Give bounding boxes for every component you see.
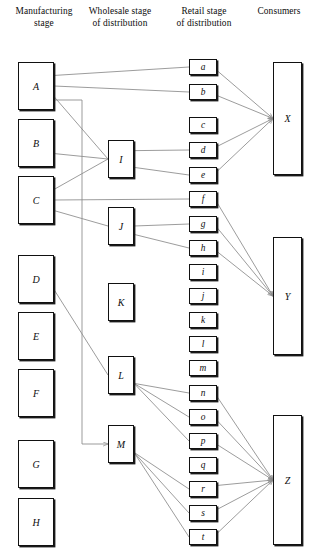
edge-n-to-Z [217,397,273,480]
manufacturer-node-B[interactable]: B [18,119,54,167]
manufacturer-label-E: E [33,331,39,342]
manufacturer-node-H[interactable]: H [18,498,54,546]
retailer-label-q: q [201,460,206,470]
consumer-label-X: X [284,113,290,124]
edge-f-to-Y [217,203,273,296]
retailer-label-n: n [201,388,206,398]
edge-J-to-g [134,224,189,226]
retailer-node-r[interactable]: r [189,481,217,497]
wholesaler-label-M: M [117,439,125,450]
manufacturer-label-G: G [32,459,39,470]
wholesaler-node-L[interactable]: L [108,356,134,394]
edge-A-to-b [54,86,189,92]
retailer-node-s[interactable]: s [189,505,217,521]
retailer-label-s: s [201,508,205,518]
edge-D-to-L [54,290,108,375]
edge-I-to-d [134,150,189,151]
edge-J-to-h [134,234,189,248]
retailer-label-i: i [202,267,205,277]
retailer-node-p[interactable]: p [189,433,217,449]
retailer-label-j: j [202,291,205,301]
manufacturer-node-E[interactable]: E [18,312,54,360]
retailer-node-t[interactable]: t [189,529,217,545]
manufacturer-node-G[interactable]: G [18,440,54,488]
manufacturer-label-A: A [33,81,39,92]
edge-t-to-Z [217,480,273,533]
retailer-node-k[interactable]: k [189,312,217,328]
edge-A-to-M [54,100,108,444]
manufacturer-node-A[interactable]: A [18,62,54,110]
retailer-node-i[interactable]: i [189,264,217,280]
manufacturer-label-H: H [32,517,39,528]
retailer-label-d: d [201,145,206,155]
manufacturer-label-C: C [33,195,40,206]
retailer-node-d[interactable]: d [189,142,217,158]
retailer-node-a[interactable]: a [189,59,217,75]
wholesaler-node-K[interactable]: K [108,283,134,321]
edge-B-to-I [54,154,108,159]
retailer-node-o[interactable]: o [189,409,217,425]
retailer-node-b[interactable]: b [189,84,217,100]
edge-M-to-t [134,452,189,537]
retailer-label-k: k [201,315,205,325]
edge-b-to-X [217,96,273,119]
retailer-label-b: b [201,87,206,97]
consumer-node-Z[interactable]: Z [273,415,302,545]
consumer-label-Z: Z [285,475,291,486]
edge-a-to-X [217,71,273,119]
manufacturer-label-B: B [33,138,39,149]
consumer-node-X[interactable]: X [273,62,302,175]
retailer-label-g: g [201,219,206,229]
edge-g-to-Y [217,228,273,296]
wholesaler-node-J[interactable]: J [108,207,134,245]
retailer-node-e[interactable]: e [189,167,217,183]
retailer-node-j[interactable]: j [189,288,217,304]
wholesaler-node-M[interactable]: M [108,425,134,463]
wholesaler-label-J: J [119,221,123,232]
manufacturer-node-F[interactable]: F [18,369,54,417]
wholesaler-label-L: L [118,370,124,381]
retailer-label-l: l [202,339,205,349]
retailer-node-c[interactable]: c [189,117,217,133]
retailer-node-q[interactable]: q [189,457,217,473]
retailer-label-m: m [200,363,207,373]
manufacturer-label-F: F [33,388,39,399]
edge-M-to-s [134,452,189,513]
edge-I-to-e [134,167,189,175]
retailer-node-n[interactable]: n [189,385,217,401]
edge-d-to-X [217,119,273,147]
manufacturer-label-D: D [32,274,39,285]
edge-A-to-I [54,97,108,159]
wholesaler-label-I: I [119,154,122,165]
retailer-label-h: h [201,243,206,253]
consumer-node-Y[interactable]: Y [273,237,302,355]
retailer-label-f: f [202,194,205,204]
retailer-label-o: o [201,412,206,422]
retailer-label-e: e [201,170,205,180]
consumer-label-Y: Y [285,291,291,302]
retailer-label-t: t [202,532,205,542]
wholesaler-label-K: K [118,297,125,308]
manufacturer-node-C[interactable]: C [18,176,54,224]
edge-C-to-I [54,159,108,189]
edge-C-to-J [54,211,108,226]
edge-A-to-a [54,67,189,75]
retailer-label-a: a [201,62,206,72]
edge-e-to-X [217,119,273,172]
wholesaler-node-I[interactable]: I [108,140,134,178]
retailer-node-h[interactable]: h [189,240,217,256]
retailer-node-g[interactable]: g [189,216,217,232]
retailer-label-c: c [201,120,205,130]
retailer-label-r: r [201,484,205,494]
retailer-label-p: p [201,436,206,446]
diagram-canvas: Manufacturing stage Wholesale stage of d… [0,0,313,555]
retailer-node-m[interactable]: m [189,360,217,376]
retailer-node-f[interactable]: f [189,191,217,207]
manufacturer-node-D[interactable]: D [18,255,54,303]
retailer-node-l[interactable]: l [189,336,217,352]
edge-C-to-f [54,199,189,200]
edge-h-to-Y [217,252,273,296]
edge-M-to-r [134,452,189,489]
